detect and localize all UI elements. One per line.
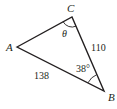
angle-label-theta: θ — [62, 28, 67, 39]
vertex-label-a: A — [5, 41, 13, 53]
vertex-label-c: C — [67, 2, 75, 14]
angle-label-b: 38° — [76, 63, 90, 74]
side-label-ab: 138 — [34, 70, 49, 81]
triangle-diagram: C A B θ 38° 110 138 — [0, 0, 117, 109]
vertex-label-b: B — [108, 91, 115, 103]
angle-arc-b — [88, 75, 97, 83]
side-label-cb: 110 — [91, 42, 106, 53]
triangle-abc — [17, 17, 104, 91]
